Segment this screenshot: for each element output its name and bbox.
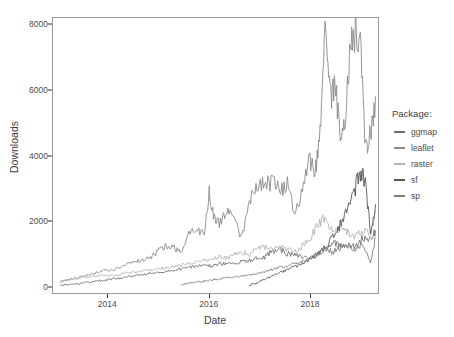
y-tick-label: 8000	[20, 19, 48, 29]
legend-color-swatch	[394, 163, 405, 165]
legend-item-raster[interactable]: raster	[392, 156, 452, 172]
legend-label: raster	[411, 159, 433, 169]
series-line-sp	[181, 237, 375, 285]
legend-item-ggmap[interactable]: ggmap	[392, 124, 452, 140]
y-axis-title-text: Downloads	[8, 121, 20, 173]
legend-key-icon	[392, 157, 407, 172]
legend-items: ggmapleafletrastersfsp	[392, 124, 452, 204]
x-tick-label: 2014	[98, 299, 117, 309]
legend-item-sf[interactable]: sf	[392, 172, 452, 188]
x-axis-title: Date	[52, 314, 379, 326]
legend-color-swatch	[394, 147, 405, 149]
x-axis-tick-labels: 201420162018	[52, 299, 379, 313]
legend-title: Package:	[392, 108, 452, 119]
legend-item-leaflet[interactable]: leaflet	[392, 140, 452, 156]
y-tick-label: 4000	[20, 151, 48, 161]
legend-label: sf	[411, 175, 418, 185]
x-axis-tick-marks	[52, 294, 379, 298]
x-tick-mark	[209, 294, 210, 298]
legend-color-swatch	[394, 131, 405, 133]
chart-figure: Downloads 02000400060008000 201420162018…	[0, 0, 454, 337]
x-tick-mark	[310, 294, 311, 298]
legend-label: sp	[411, 191, 420, 201]
legend-key-icon	[392, 189, 407, 204]
legend-label: ggmap	[411, 127, 437, 137]
legend: Package: ggmapleafletrastersfsp	[392, 108, 452, 204]
legend-key-icon	[392, 173, 407, 188]
legend-color-swatch	[394, 179, 405, 181]
legend-key-icon	[392, 141, 407, 156]
plot-panel	[52, 17, 379, 294]
y-tick-label: 6000	[20, 85, 48, 95]
legend-item-sp[interactable]: sp	[392, 188, 452, 204]
legend-label: leaflet	[411, 143, 434, 153]
x-tick-label: 2016	[199, 299, 218, 309]
x-tick-mark	[107, 294, 108, 298]
legend-color-swatch	[394, 195, 405, 197]
y-tick-label: 2000	[20, 216, 48, 226]
series-line-sf	[249, 168, 375, 286]
legend-key-icon	[392, 125, 407, 140]
plot-lines	[53, 18, 378, 293]
x-tick-label: 2018	[301, 299, 320, 309]
y-tick-label: 0	[20, 282, 48, 292]
y-axis-tick-labels: 02000400060008000	[20, 17, 48, 294]
series-line-leaflet	[60, 18, 375, 282]
